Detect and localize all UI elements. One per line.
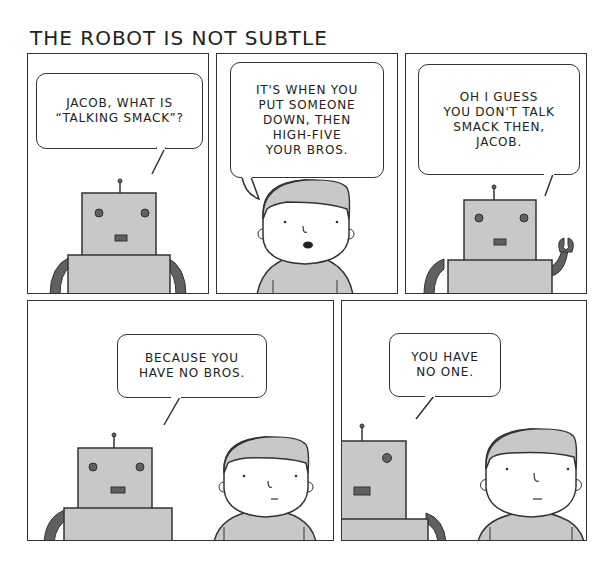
panel-4: BECAUSE YOU HAVE NO BROS. (27, 300, 334, 541)
panel-3: OH I GUESS YOU DON'T TALK SMACK THEN, JA… (405, 53, 587, 294)
robot-figure (406, 54, 587, 294)
panel-1: JACOB, WHAT IS “TALKING SMACK”? (27, 53, 209, 294)
comic-title: THE ROBOT IS NOT SUBTLE (30, 26, 328, 50)
panel-2: IT'S WHEN YOU PUT SOMEONE DOWN, THEN HIG… (216, 53, 398, 294)
robot-and-jacob-figures (342, 301, 587, 541)
panel-5: YOU HAVE NO ONE. (341, 300, 587, 541)
robot-and-jacob-figures (28, 301, 334, 541)
robot-figure (28, 54, 209, 294)
jacob-figure (217, 54, 398, 294)
